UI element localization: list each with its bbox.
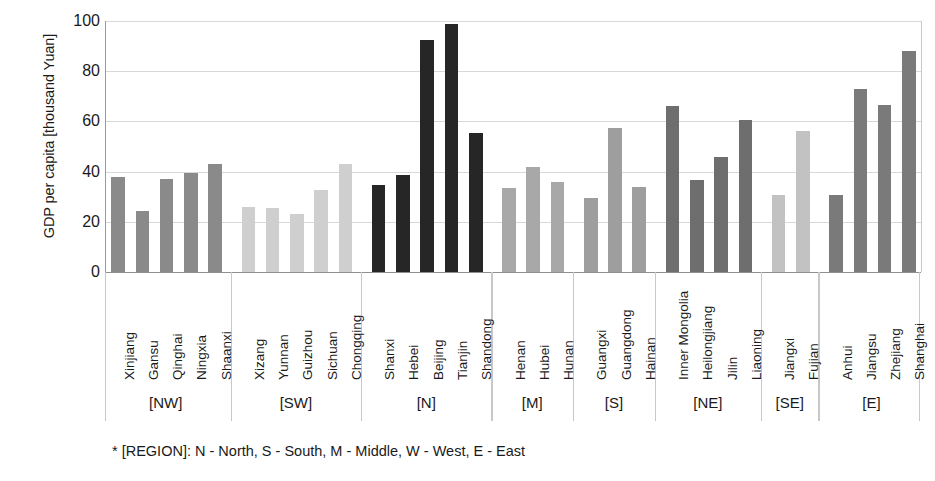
category-label: Xizang (253, 339, 267, 380)
category-label: Heilongjiang (701, 306, 715, 380)
category-label: Chongqing (350, 315, 364, 380)
category-label: Gansu (147, 340, 161, 380)
y-tick-label: 0 (56, 264, 100, 280)
category-label: Fujian (807, 343, 821, 380)
y-tick-label: 60 (56, 113, 100, 129)
category-label: Tianjin (456, 341, 470, 380)
region-label: [N] (366, 394, 487, 411)
region-label: [S] (578, 394, 651, 411)
y-axis-tick-labels: 020406080100 (56, 0, 100, 481)
category-label: Jiangsu (865, 333, 879, 380)
category-label: Zhejiang (889, 328, 903, 380)
category-axis-labels: XinjiangGansuQinghaiNingxiaShaanxiXizang… (105, 276, 920, 384)
category-label: Henan (514, 340, 528, 380)
category-label: Qinghai (171, 333, 185, 380)
region-label: [E] (823, 394, 920, 411)
category-label: Hunan (562, 340, 576, 380)
region-label: [M] (496, 394, 569, 411)
category-label: Beijing (432, 339, 446, 380)
category-label: Sichuan (326, 331, 340, 380)
y-axis-title: GDP per capita [thousand Yuan] (41, 5, 57, 267)
region-label: [NW] (105, 394, 226, 411)
category-label: Hubei (538, 345, 552, 380)
category-label: Liaoning (750, 329, 764, 380)
category-label: Shaanxi (220, 331, 234, 380)
y-tick-label: 20 (56, 214, 100, 230)
region-label: [SW] (235, 394, 356, 411)
category-label: Shanghai (913, 323, 927, 380)
y-tick-label: 80 (56, 63, 100, 79)
category-label: Xinjiang (123, 332, 137, 380)
category-label: Guizhou (301, 330, 315, 380)
y-tick-label: 40 (56, 164, 100, 180)
category-label: Shanxi (383, 339, 397, 380)
region-label: [SE] (765, 394, 814, 411)
gdp-per-capita-bar-chart: GDP per capita [thousand Yuan] 020406080… (0, 0, 935, 481)
category-label: Guangdong (620, 309, 634, 380)
category-label: Shandong (480, 318, 494, 380)
region-label: [NE] (659, 394, 756, 411)
category-label: Hainan (644, 337, 658, 380)
category-label: Jiangxi (783, 338, 797, 380)
region-band: [NW][SW][N][M][S][NE][SE][E] (105, 384, 920, 421)
category-label: Inner Mongolia (677, 291, 691, 380)
chart-footnote: * [REGION]: N - North, S - South, M - Mi… (112, 443, 525, 459)
category-label: Guangxi (595, 330, 609, 380)
y-tick-label: 100 (56, 13, 100, 29)
category-label: Yunnan (277, 334, 291, 380)
category-label: Hebei (407, 345, 421, 380)
category-label: Ningxia (195, 335, 209, 380)
category-label: Jilin (726, 357, 740, 380)
category-label: Anhui (841, 345, 855, 380)
